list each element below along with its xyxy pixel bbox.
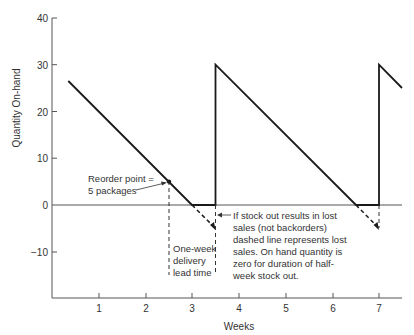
x-tick-label: 7 (376, 303, 382, 314)
x-tick-label: 2 (143, 303, 149, 314)
arrowhead-icon (210, 222, 216, 230)
x-tick-label: 3 (189, 303, 195, 314)
y-tick-label: −10 (31, 247, 48, 258)
reorder-point-label: Reorder point = (88, 173, 154, 184)
reorder-arrow (136, 183, 165, 190)
stockout-note: dashed line represents lost (233, 234, 347, 245)
x-axis (52, 293, 402, 298)
stockout-note: If stock out results in lost (233, 210, 337, 221)
x-tick-label: 4 (236, 303, 242, 314)
x-tick-label: 6 (330, 303, 336, 314)
arrowhead-icon (161, 182, 167, 186)
y-axis-title: Quantity On-hand (11, 69, 22, 148)
stockout-note: week stock out. (232, 270, 298, 281)
lead-time-label: lead time (173, 267, 212, 278)
inventory-chart: 40 30 20 10 0 −10 1 2 3 4 5 6 7 Weeks Qu… (0, 0, 414, 335)
reorder-point-marker (167, 179, 171, 183)
stockout-note: zero for duration of half- (233, 258, 334, 269)
y-tick-label: 40 (37, 13, 49, 24)
y-tick-label: 10 (37, 153, 49, 164)
arrowhead-icon (374, 222, 380, 230)
x-tick-label: 5 (283, 303, 289, 314)
reorder-point-label: 5 packages (88, 185, 137, 196)
y-tick-label: 30 (37, 60, 49, 71)
stockout-note: sales. On hand quantity is (233, 246, 343, 257)
stockout-note: sales (not backorders) (233, 222, 327, 233)
lead-time-label: delivery (173, 255, 206, 266)
y-tick-label: 20 (37, 107, 49, 118)
y-axis (52, 18, 57, 298)
lead-time-label: One-week (173, 243, 217, 254)
x-axis-title: Weeks (224, 321, 254, 332)
arrowhead-icon (217, 213, 222, 218)
y-tick-label: 0 (42, 200, 48, 211)
x-tick-label: 1 (96, 303, 102, 314)
